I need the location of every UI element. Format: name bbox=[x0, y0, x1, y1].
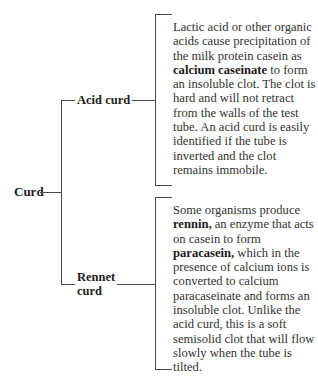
desc-text: to form an insoluble clot. The clot is h… bbox=[173, 63, 315, 177]
rennet-bracket-top-tick bbox=[155, 197, 172, 198]
desc-term-calcium-caseinate: calcium caseinate bbox=[173, 63, 267, 77]
acid-curd-description: Lactic acid or other organic acids cause… bbox=[173, 20, 318, 177]
acid-bracket-vertical bbox=[155, 14, 156, 185]
rennet-to-bracket-line bbox=[117, 284, 155, 285]
desc-text: which in the presence of calcium ions is… bbox=[173, 246, 314, 374]
desc-text: Some organisms produce bbox=[173, 203, 300, 217]
rennet-bracket-vertical bbox=[155, 197, 156, 369]
rennet-bracket-bottom-tick bbox=[155, 369, 172, 370]
acid-bracket-bottom-tick bbox=[155, 185, 172, 186]
branch-label-rennet-line1: Rennet bbox=[77, 270, 115, 284]
root-connector-line bbox=[40, 192, 61, 193]
branch-label-acid-curd: Acid curd bbox=[77, 93, 130, 107]
branch-label-rennet-curd: Rennet curd bbox=[77, 270, 115, 298]
rennet-curd-description: Some organisms produce rennin, an enzyme… bbox=[173, 203, 318, 375]
branch-label-rennet-line2: curd bbox=[77, 284, 115, 298]
desc-text: Lactic acid or other organic acids cause… bbox=[173, 20, 312, 63]
rennet-branch-line bbox=[61, 284, 75, 285]
desc-term-paracasein: paracasein, bbox=[173, 246, 234, 260]
acid-branch-line bbox=[61, 100, 75, 101]
trunk-vertical-line bbox=[61, 100, 62, 285]
acid-bracket-top-tick bbox=[155, 14, 172, 15]
desc-term-rennin: rennin, bbox=[173, 217, 212, 231]
acid-to-bracket-line bbox=[132, 100, 155, 101]
